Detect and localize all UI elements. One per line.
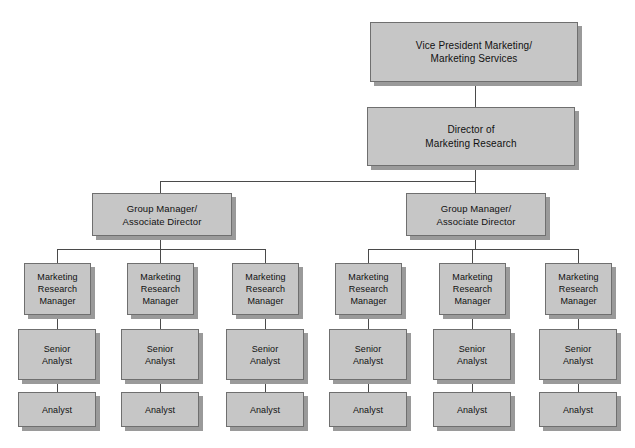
node-label: Analyst [145,404,175,416]
connector-group-manager-left-stem [160,236,161,249]
node-vice-president-marketing[interactable]: Vice President Marketing/ Marketing Serv… [370,22,578,82]
connector-vp-to-director [475,82,476,108]
node-label: Analyst [353,404,383,416]
node-label: Vice President Marketing/ Marketing Serv… [416,39,532,66]
node-label: Senior Analyst [42,343,72,367]
node-senior-analyst-3[interactable]: Senior Analyst [226,329,304,380]
connector-senior5-to-analyst5 [472,380,473,392]
connector-group-manager-right-bus [368,249,579,250]
node-analyst-4[interactable]: Analyst [329,392,407,427]
connector-senior1-to-analyst1 [57,380,58,392]
connector-group-manager-right-stem [475,236,476,249]
node-analyst-6[interactable]: Analyst [539,392,617,427]
connector-group-manager-left-bus [57,249,266,250]
node-label: Senior Analyst [250,343,280,367]
node-label: Analyst [42,404,72,416]
node-senior-analyst-6[interactable]: Senior Analyst [539,329,617,380]
node-marketing-research-manager-2[interactable]: Marketing Research Manager [127,263,194,315]
node-label: Senior Analyst [145,343,175,367]
connector-bus-right-to-col6 [578,249,579,263]
connector-mrm5-to-senior5 [472,315,473,329]
connector-director-stem [475,166,476,181]
connector-mrm2-to-senior2 [160,315,161,329]
node-label: Marketing Research Manager [452,271,492,307]
connector-mrm1-to-senior1 [57,315,58,329]
node-label: Senior Analyst [353,343,383,367]
connector-bus-to-group-manager-left [160,181,161,193]
node-analyst-5[interactable]: Analyst [433,392,511,427]
node-analyst-1[interactable]: Analyst [18,392,96,427]
node-senior-analyst-4[interactable]: Senior Analyst [329,329,407,380]
connector-bus-right-to-col5 [472,249,473,263]
node-group-manager-right[interactable]: Group Manager/ Associate Director [406,193,546,236]
node-marketing-research-manager-3[interactable]: Marketing Research Manager [232,263,299,315]
node-marketing-research-manager-5[interactable]: Marketing Research Manager [439,263,506,315]
connector-bus-left-to-col2 [160,249,161,263]
node-label: Group Manager/ Associate Director [123,202,202,228]
node-senior-analyst-2[interactable]: Senior Analyst [121,329,199,380]
node-senior-analyst-5[interactable]: Senior Analyst [433,329,511,380]
connector-mrm6-to-senior6 [578,315,579,329]
connector-bus-left-to-col3 [265,249,266,263]
node-group-manager-left[interactable]: Group Manager/ Associate Director [92,193,232,236]
connector-mrm4-to-senior4 [368,315,369,329]
node-label: Senior Analyst [563,343,593,367]
node-label: Marketing Research Manager [140,271,180,307]
node-label: Marketing Research Manager [245,271,285,307]
node-marketing-research-manager-6[interactable]: Marketing Research Manager [545,263,612,315]
connector-senior2-to-analyst2 [160,380,161,392]
connector-bus-left-to-col1 [57,249,58,263]
node-label: Marketing Research Manager [37,271,77,307]
node-senior-analyst-1[interactable]: Senior Analyst [18,329,96,380]
node-director-of-marketing-research[interactable]: Director of Marketing Research [367,107,575,166]
node-label: Analyst [250,404,280,416]
node-label: Director of Marketing Research [425,123,516,150]
connector-mrm3-to-senior3 [265,315,266,329]
node-analyst-3[interactable]: Analyst [226,392,304,427]
node-label: Marketing Research Manager [348,271,388,307]
connector-senior3-to-analyst3 [265,380,266,392]
connector-director-bus [160,181,476,182]
node-label: Analyst [563,404,593,416]
node-label: Group Manager/ Associate Director [437,202,516,228]
connector-bus-to-group-manager-right [475,181,476,193]
node-analyst-2[interactable]: Analyst [121,392,199,427]
node-label: Analyst [457,404,487,416]
node-label: Senior Analyst [457,343,487,367]
node-marketing-research-manager-1[interactable]: Marketing Research Manager [24,263,91,315]
org-chart-canvas: Vice President Marketing/ Marketing Serv… [0,0,635,448]
connector-senior6-to-analyst6 [578,380,579,392]
node-marketing-research-manager-4[interactable]: Marketing Research Manager [335,263,402,315]
connector-senior4-to-analyst4 [368,380,369,392]
node-label: Marketing Research Manager [558,271,598,307]
connector-bus-right-to-col4 [368,249,369,263]
